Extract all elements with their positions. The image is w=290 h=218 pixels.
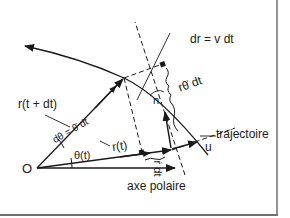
n-vector-label: n (153, 95, 159, 106)
u-vector-label: u (205, 141, 212, 153)
right-angle-mark-b (159, 61, 165, 67)
right-angle-mark-a (139, 150, 145, 156)
r-t-mid-arrow (120, 153, 150, 157)
r-t-dt-mid-arrow (95, 86, 116, 108)
dr-equals-v-dt-label: dr = v dt (190, 33, 234, 45)
r-t-label: r(t) (111, 139, 128, 153)
diagram-frame: O axe polaire trajectoire r(t + dt) r(t)… (0, 0, 290, 218)
projection-dashed-b (124, 63, 165, 78)
rdot-dt-label: ṙ dt (152, 161, 163, 177)
polar-axis-label: axe polaire (127, 180, 186, 192)
origin-label: O (22, 162, 32, 175)
r-t-leader (100, 141, 110, 146)
theta-t-label: θ(t) (74, 150, 91, 161)
r-t-dt-label: r(t + dt) (18, 98, 57, 110)
r-t-vector (37, 150, 171, 168)
n-vector (165, 112, 171, 148)
brace-rdot-dt (145, 157, 165, 160)
trajectory-label: trajectoire (216, 128, 269, 140)
